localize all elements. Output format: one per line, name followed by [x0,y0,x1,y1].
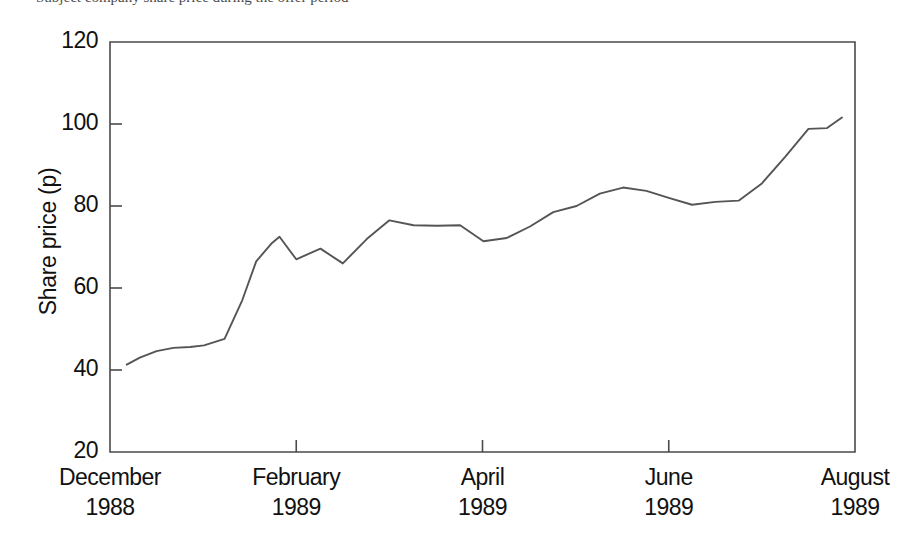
x-tick-month: August [755,462,905,492]
x-tick-label-0: December1988 [10,462,210,523]
x-tick-year: 1989 [569,492,769,522]
x-tick-label-2: April1989 [383,462,583,523]
axis-frame [110,42,855,452]
x-tick-year: 1988 [10,492,210,522]
y-axis-ticks [110,124,122,370]
x-axis-ticks [296,440,669,452]
axes-group [110,42,855,452]
x-tick-month: December [10,462,210,492]
x-tick-year: 1989 [383,492,583,522]
plot-canvas [0,0,905,542]
x-tick-label-3: June1989 [569,462,769,523]
x-tick-month: June [569,462,769,492]
series-group [127,117,842,364]
y-tick-label-20: 20 [20,437,98,464]
x-tick-year: 1989 [755,492,905,522]
x-tick-label-1: February1989 [196,462,396,523]
series-line-share-price [127,117,842,364]
share-price-line-chart: 20406080100120 December1988February1989A… [0,0,905,542]
x-tick-year: 1989 [196,492,396,522]
y-axis-title: Share price (p) [35,102,62,382]
x-tick-label-4: August1989 [755,462,905,523]
y-tick-label-120: 120 [20,27,98,54]
x-tick-month: February [196,462,396,492]
x-tick-month: April [383,462,583,492]
